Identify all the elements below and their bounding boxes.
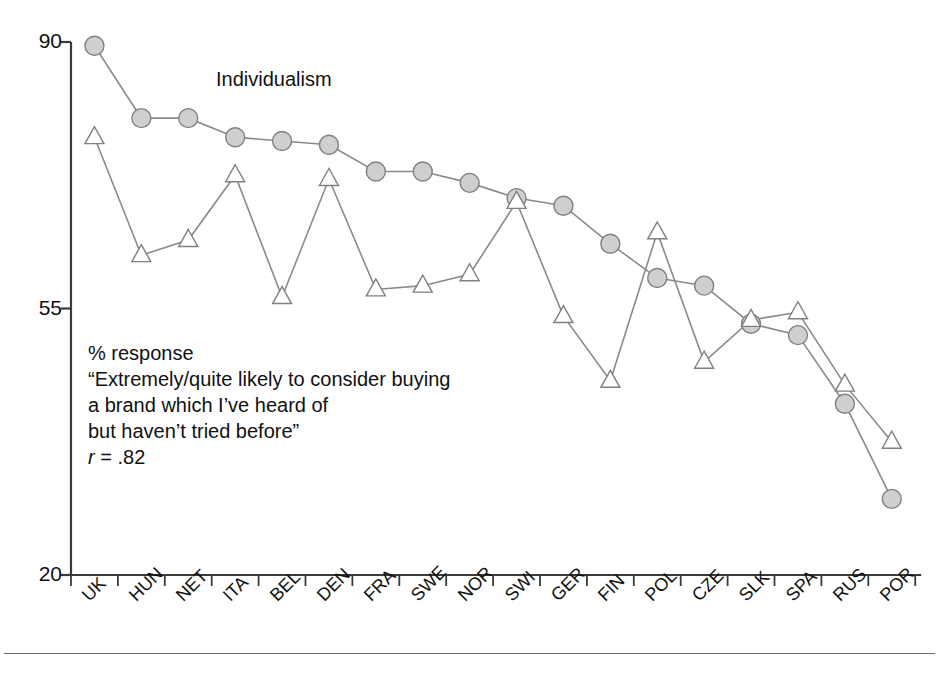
data-point-triangle <box>319 169 338 186</box>
data-point-triangle <box>554 306 573 323</box>
annotation-line-5: r = .82 <box>88 444 450 470</box>
r-value: = .82 <box>95 446 146 468</box>
data-point-circle <box>460 173 479 192</box>
annotation-line-4: but haven’t tried before” <box>88 418 450 444</box>
data-point-circle <box>366 162 385 181</box>
data-point-circle <box>413 162 432 181</box>
chart-figure: Individualism % response “Extremely/quit… <box>0 0 939 676</box>
data-point-circle <box>273 131 292 150</box>
data-point-triangle <box>85 127 104 144</box>
data-point-circle <box>554 196 573 215</box>
y-tick-label: 90 <box>20 29 62 53</box>
data-point-triangle <box>648 222 667 239</box>
data-point-circle <box>179 109 198 128</box>
data-point-circle <box>835 394 854 413</box>
data-point-circle <box>85 36 104 55</box>
data-point-triangle <box>835 374 854 391</box>
data-point-circle <box>648 269 667 288</box>
annotation-line-3: a brand which I’ve heard of <box>88 392 450 418</box>
data-point-triangle <box>788 302 807 319</box>
data-point-circle <box>601 234 620 253</box>
data-point-circle <box>882 489 901 508</box>
data-point-circle <box>788 326 807 345</box>
data-point-triangle <box>226 165 245 182</box>
r-symbol: r <box>88 446 95 468</box>
chart-annotation: % response “Extremely/quite likely to co… <box>88 340 450 470</box>
data-point-circle <box>132 109 151 128</box>
data-point-circle <box>319 135 338 154</box>
data-point-circle <box>226 128 245 147</box>
data-point-triangle <box>695 351 714 368</box>
annotation-line-1: % response <box>88 340 450 366</box>
footer-rule <box>4 653 935 654</box>
series-label-individualism: Individualism <box>216 68 332 91</box>
data-point-circle <box>695 276 714 295</box>
annotation-line-2: “Extremely/quite likely to consider buyi… <box>88 366 450 392</box>
y-tick-label: 55 <box>20 296 62 320</box>
y-tick-label: 20 <box>20 562 62 586</box>
data-point-triangle <box>366 279 385 296</box>
data-point-triangle <box>460 264 479 281</box>
data-point-triangle <box>273 287 292 304</box>
